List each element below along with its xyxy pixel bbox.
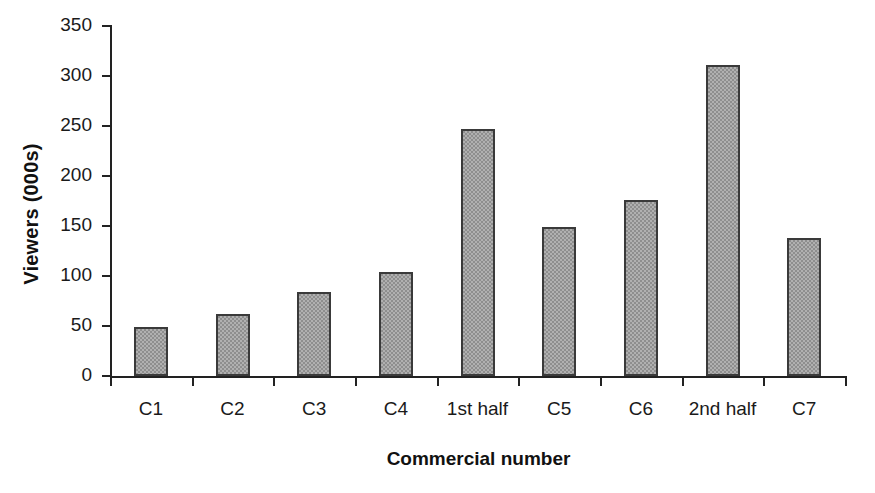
bar	[542, 227, 576, 376]
y-axis-tick-label: 0	[28, 364, 92, 386]
bar	[461, 129, 495, 376]
y-axis-tick-label-text: 350	[30, 14, 92, 36]
x-axis-label: C2	[192, 396, 274, 422]
plot-area	[110, 26, 845, 376]
y-axis-tick-label-text: 200	[30, 164, 92, 186]
y-axis-tick-label: 100	[28, 264, 92, 286]
x-axis-line	[110, 376, 847, 378]
bar	[297, 292, 331, 376]
y-axis-tick-label-text: 50	[30, 314, 92, 336]
y-axis-tick-label: 300	[28, 64, 92, 86]
x-axis-label: 1st half	[437, 396, 519, 422]
y-axis-tick-label-text: 100	[30, 264, 92, 286]
y-axis-tick-label: 50	[28, 314, 92, 336]
y-axis-tick-label-text: 0	[30, 364, 92, 386]
x-axis-tick	[192, 377, 194, 386]
y-axis-tick-label: 200	[28, 164, 92, 186]
bar	[624, 200, 658, 376]
x-axis-title: Commercial number	[110, 448, 847, 470]
y-axis-tick-label: 150	[28, 214, 92, 236]
x-axis-label: C3	[273, 396, 355, 422]
x-axis-label: 2nd half	[682, 396, 764, 422]
y-axis-tick-label-text: 250	[30, 114, 92, 136]
y-axis-tick-label-text: 150	[30, 214, 92, 236]
x-axis-label: C1	[110, 396, 192, 422]
x-axis-tick	[518, 377, 520, 386]
x-axis-label: C7	[763, 396, 845, 422]
x-axis-tick	[845, 377, 847, 386]
x-axis-tick	[763, 377, 765, 386]
bar	[216, 314, 250, 376]
x-axis-tick	[437, 377, 439, 386]
bar-chart: Viewers (000s) 050100150200250300350 C1C…	[0, 0, 875, 493]
x-axis-tick	[273, 377, 275, 386]
x-axis-label: C6	[600, 396, 682, 422]
x-axis-label: C5	[518, 396, 600, 422]
bar	[134, 327, 168, 376]
x-axis-tick	[600, 377, 602, 386]
bar	[787, 238, 821, 376]
y-axis-tick-label: 350	[28, 14, 92, 36]
bar	[706, 65, 740, 376]
x-axis-tick	[682, 377, 684, 386]
x-axis-tick	[110, 377, 112, 386]
y-axis-tick-label: 250	[28, 114, 92, 136]
x-axis-tick	[355, 377, 357, 386]
x-axis-label: C4	[355, 396, 437, 422]
y-axis-tick-label-text: 300	[30, 64, 92, 86]
bar	[379, 272, 413, 376]
